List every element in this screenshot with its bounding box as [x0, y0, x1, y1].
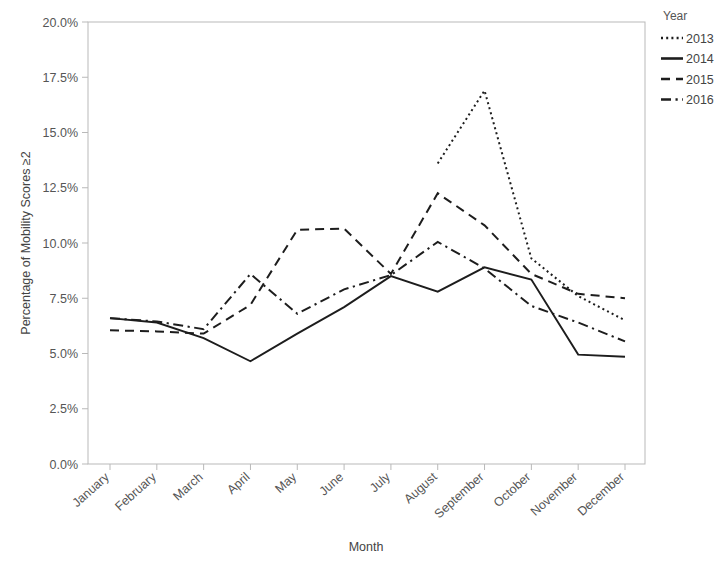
- legend-title: Year: [663, 9, 687, 23]
- legend: 2013201420152016: [661, 32, 714, 108]
- x-tick-label: January: [70, 469, 113, 510]
- x-tick-label: August: [401, 469, 440, 506]
- y-tick-label: 5.0%: [50, 347, 79, 361]
- x-tick-label: June: [317, 470, 347, 499]
- y-tick-label: 0.0%: [50, 458, 79, 472]
- legend-label-2014: 2014: [686, 52, 714, 66]
- y-tick-label: 15.0%: [43, 126, 78, 140]
- line-chart: 0.0%2.5%5.0%7.5%10.0%12.5%15.0%17.5%20.0…: [0, 0, 725, 572]
- x-axis-ticks: [110, 464, 625, 470]
- x-tick-label: February: [112, 469, 159, 513]
- y-tick-label: 7.5%: [50, 292, 79, 306]
- x-axis-tick-labels: JanuaryFebruaryMarchAprilMayJuneJulyAugu…: [70, 469, 627, 521]
- x-tick-label: October: [491, 470, 533, 510]
- y-tick-label: 10.0%: [43, 237, 78, 251]
- y-axis-tick-labels: 0.0%2.5%5.0%7.5%10.0%12.5%15.0%17.5%20.0…: [43, 16, 78, 472]
- y-axis-title: Percentage of Mobility Scores ≥2: [19, 151, 33, 334]
- y-tick-label: 17.5%: [43, 71, 78, 85]
- x-tick-label: April: [225, 470, 253, 497]
- x-tick-label: December: [575, 470, 627, 519]
- x-tick-label: May: [272, 469, 299, 496]
- x-tick-label: September: [432, 470, 487, 521]
- x-tick-label: July: [367, 469, 393, 495]
- plot-area: [88, 22, 645, 464]
- legend-label-2013: 2013: [686, 32, 714, 46]
- chart-svg: 0.0%2.5%5.0%7.5%10.0%12.5%15.0%17.5%20.0…: [0, 0, 725, 572]
- x-tick-label: November: [528, 470, 580, 519]
- y-tick-label: 20.0%: [43, 16, 78, 30]
- legend-label-2016: 2016: [686, 93, 714, 107]
- x-axis-title: Month: [349, 540, 384, 554]
- y-tick-label: 12.5%: [43, 181, 78, 195]
- x-tick-label: March: [170, 470, 205, 504]
- legend-label-2015: 2015: [686, 73, 714, 87]
- y-axis-ticks: [82, 22, 88, 464]
- y-tick-label: 2.5%: [50, 402, 79, 416]
